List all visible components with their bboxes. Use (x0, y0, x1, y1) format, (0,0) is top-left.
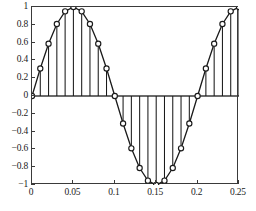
x-tick-mark (155, 180, 156, 184)
y-tick-label: 0.8 (17, 19, 28, 29)
y-tick-label: −0.2 (12, 108, 28, 118)
y-axis-tick-labels: −1−0.8−0.6−0.4−0.200.20.40.60.81 (0, 0, 28, 211)
x-tick-label: 0.1 (108, 187, 119, 198)
y-tick-label: 0.4 (17, 54, 28, 64)
y-tick-mark (31, 77, 35, 78)
y-tick-mark (31, 166, 35, 167)
x-tick-label: 0.15 (147, 187, 163, 198)
plot-canvas (32, 7, 239, 185)
y-tick-mark (31, 24, 35, 25)
x-tick-label: 0.25 (230, 187, 246, 198)
x-tick-mark (72, 180, 73, 184)
plot-area (31, 6, 238, 184)
y-tick-mark (31, 95, 35, 96)
y-tick-mark (31, 184, 35, 185)
y-tick-label: −0.4 (12, 126, 28, 136)
y-tick-mark (31, 42, 35, 43)
x-tick-label: 0.2 (191, 187, 202, 198)
y-tick-mark (31, 6, 35, 7)
x-axis-tick-labels: 00.050.10.150.20.25 (0, 187, 256, 203)
y-tick-mark (31, 113, 35, 114)
y-tick-label: 0.2 (17, 72, 28, 82)
x-tick-mark (238, 180, 239, 184)
y-tick-label: −0.6 (12, 143, 28, 153)
sine-stem-plot-figure: −1−0.8−0.6−0.4−0.200.20.40.60.81 00.050.… (0, 0, 256, 211)
x-tick-mark (114, 180, 115, 184)
x-tick-label: 0 (29, 187, 34, 198)
y-tick-label: 0 (23, 90, 28, 100)
y-tick-mark (31, 59, 35, 60)
x-tick-mark (197, 180, 198, 184)
y-tick-label: 1 (23, 1, 28, 11)
x-tick-mark (31, 180, 32, 184)
x-tick-label: 0.05 (64, 187, 80, 198)
y-tick-mark (31, 148, 35, 149)
y-tick-label: 0.6 (17, 37, 28, 47)
y-tick-mark (31, 131, 35, 132)
y-tick-label: −0.8 (12, 161, 28, 171)
